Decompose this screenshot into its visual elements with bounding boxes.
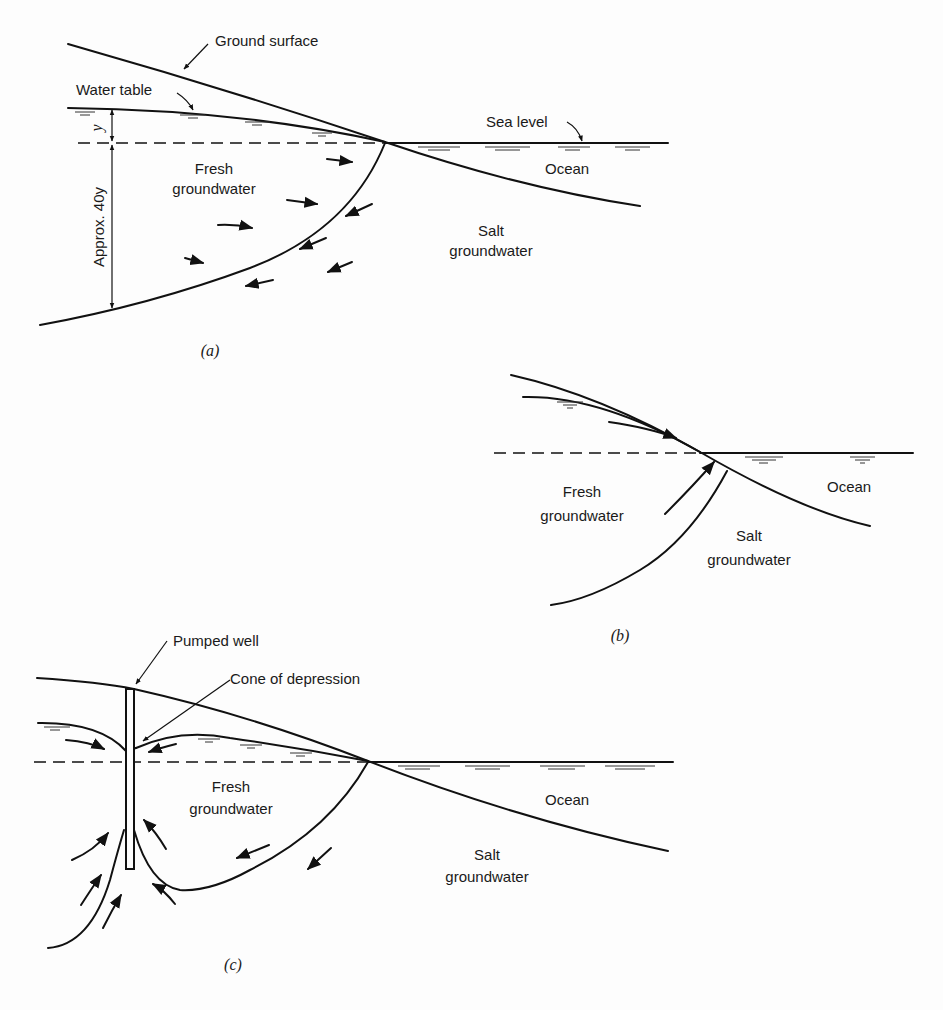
ocean-hatch-marks — [398, 766, 655, 769]
ground-surface-line — [68, 44, 640, 206]
fresh-groundwater-label: Freshgroundwater — [189, 778, 272, 817]
pumped-well-leader — [136, 641, 167, 684]
flow-arrows-b — [609, 422, 714, 514]
water-table-hatch-marks — [44, 727, 312, 756]
ground-surface-line — [511, 375, 870, 526]
panel-a: y Approx. 40y Ground surface Water table… — [40, 32, 668, 360]
water-table-line — [68, 108, 385, 142]
ocean-hatch-marks — [745, 457, 875, 463]
panel-b: Ocean Freshgroundwater Saltgroundwater (… — [494, 375, 913, 645]
water-table-hatch-marks — [75, 112, 332, 136]
salt-intrusion-left — [48, 830, 124, 948]
salt-groundwater-label: Saltgroundwater — [445, 846, 528, 885]
pumped-well-casing — [126, 689, 134, 869]
sea-level-leader — [567, 122, 582, 141]
panel-c: Pumped well Cone of depression Ocean Fre… — [34, 632, 673, 974]
ocean-hatch-marks — [418, 147, 650, 150]
pumped-well-label: Pumped well — [173, 632, 259, 649]
saltwater-intrusion-diagram: y Approx. 40y Ground surface Water table… — [0, 0, 943, 1010]
fresh-groundwater-label: Freshgroundwater — [172, 160, 255, 197]
panel-a-caption: (a) — [201, 342, 220, 360]
ocean-label: Ocean — [545, 160, 589, 177]
panel-c-caption: (c) — [224, 956, 242, 974]
water-table-line — [523, 397, 700, 452]
water-table-label: Water table — [76, 81, 152, 98]
cone-of-depression-label: Cone of depression — [230, 670, 360, 687]
flow-arrows-c — [66, 740, 331, 928]
sea-level-label: Sea level — [486, 113, 548, 130]
dimension-40y-label: Approx. 40y — [90, 186, 107, 267]
flow-arrows-a — [185, 159, 372, 286]
salt-groundwater-label: Saltgroundwater — [449, 222, 532, 259]
dimension-y-label: y — [88, 124, 106, 134]
water-table-leader — [177, 93, 193, 110]
fresh-salt-interface — [134, 762, 368, 890]
fresh-groundwater-label: Freshgroundwater — [540, 483, 623, 524]
ground-surface-label: Ground surface — [215, 32, 318, 49]
salt-groundwater-label: Saltgroundwater — [707, 527, 790, 568]
ground-surface-leader — [184, 44, 208, 69]
panel-b-caption: (b) — [611, 627, 630, 645]
ocean-label: Ocean — [827, 478, 871, 495]
ocean-label: Ocean — [545, 791, 589, 808]
